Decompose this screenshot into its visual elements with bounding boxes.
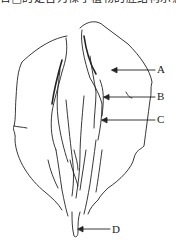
label-a: A	[157, 64, 165, 75]
specimen-drawing	[0, 0, 176, 245]
stalk	[72, 212, 80, 237]
label-c: C	[157, 114, 164, 125]
label-d: D	[112, 224, 120, 235]
right-outer-leaf	[80, 22, 152, 214]
label-b: B	[157, 91, 164, 102]
